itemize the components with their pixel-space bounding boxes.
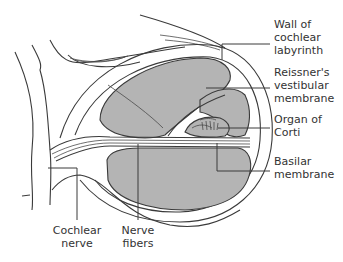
label-cochlear-nerve: Cochlear nerve xyxy=(53,224,102,250)
svg-text:cochlear: cochlear xyxy=(274,31,321,44)
svg-text:Reissner's: Reissner's xyxy=(274,66,330,79)
label-nerve-fibers: Nerve fibers xyxy=(122,224,155,250)
organ-of-corti xyxy=(185,117,229,137)
scala-tympani xyxy=(107,148,251,210)
label-basilar-membrane: Basilar membrane xyxy=(274,155,334,181)
label-reissners-membrane: Reissner's vestibular membrane xyxy=(274,66,334,105)
svg-text:labyrinth: labyrinth xyxy=(274,44,323,57)
svg-text:membrane: membrane xyxy=(274,92,334,105)
svg-text:Organ of: Organ of xyxy=(274,113,323,126)
svg-text:fibers: fibers xyxy=(123,237,154,250)
label-wall-of-cochlear-labyrinth: Wall of cochlear labyrinth xyxy=(274,18,323,57)
svg-text:Corti: Corti xyxy=(274,126,300,139)
svg-text:Basilar: Basilar xyxy=(274,155,312,168)
svg-text:membrane: membrane xyxy=(274,168,334,181)
svg-text:Cochlear: Cochlear xyxy=(53,224,102,237)
svg-text:Nerve: Nerve xyxy=(122,224,155,237)
label-organ-of-corti: Organ of Corti xyxy=(274,113,323,139)
svg-text:vestibular: vestibular xyxy=(274,79,329,92)
svg-text:nerve: nerve xyxy=(61,237,93,250)
cochlea-diagram: Wall of cochlear labyrinth Reissner's ve… xyxy=(0,0,343,262)
svg-text:Wall of: Wall of xyxy=(274,18,312,31)
